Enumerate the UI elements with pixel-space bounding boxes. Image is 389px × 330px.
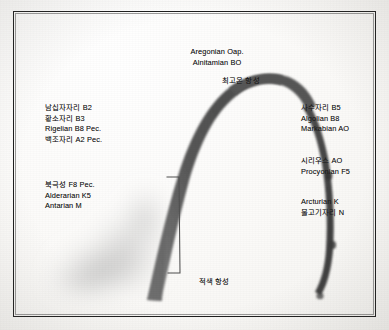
curve-rising-limb: [147, 74, 283, 301]
label-red-star-line-1: 적색 항성: [175, 277, 253, 288]
label-peak-stars: Aregonian Oap. Alnitamian BO: [162, 47, 272, 68]
label-peak-line-2: Alnitamian BO: [162, 58, 272, 69]
label-left-upper-line-3: Rigelian B8 Pec.: [45, 124, 102, 135]
diagram-page: Aregonian Oap. Alnitamian BO 최고온 항성 남십자자…: [0, 0, 389, 330]
label-right-middle-line-2: Procyonian F5: [301, 167, 350, 178]
label-right-upper-line-3: Markabian AO: [301, 124, 349, 135]
label-hottest-line-1: 최고온 항성: [222, 76, 260, 87]
label-hottest-star: 최고온 항성: [222, 76, 260, 87]
label-right-upper-line-1: 사수자리 B5: [301, 103, 349, 114]
label-group-right-middle: 시리우스 AO Procyonian F5: [301, 156, 350, 177]
label-group-right-lower: Arcturian K 물고기자리 N: [301, 197, 344, 218]
label-left-lower-line-2: Alderarian K5: [45, 191, 95, 202]
label-right-upper-line-2: Algolian B8: [301, 114, 349, 125]
label-peak-line-1: Aregonian Oap.: [162, 47, 272, 58]
label-right-lower-line-2: 물고기자리 N: [301, 208, 344, 219]
label-left-upper-line-2: 황소자리 B3: [45, 114, 102, 125]
label-red-star: 적색 항성: [175, 277, 253, 288]
label-left-upper-line-1: 남십자자리 B2: [45, 103, 102, 114]
label-right-lower-line-1: Arcturian K: [301, 197, 344, 208]
plot-area: Aregonian Oap. Alnitamian BO 최고온 항성 남십자자…: [15, 13, 374, 315]
label-group-left-upper: 남십자자리 B2 황소자리 B3 Rigelian B8 Pec. 백조자리 A…: [45, 103, 102, 145]
label-right-middle-line-1: 시리우스 AO: [301, 156, 350, 167]
label-left-lower-line-1: 북극성 F8 Pec.: [45, 180, 95, 191]
label-group-right-upper: 사수자리 B5 Algolian B8 Markabian AO: [301, 103, 349, 135]
label-left-upper-line-4: 백조자리 A2 Pec.: [45, 135, 102, 146]
label-group-left-lower: 북극성 F8 Pec. Alderarian K5 Antarian M: [45, 180, 95, 212]
label-left-lower-line-3: Antarian M: [45, 201, 95, 212]
